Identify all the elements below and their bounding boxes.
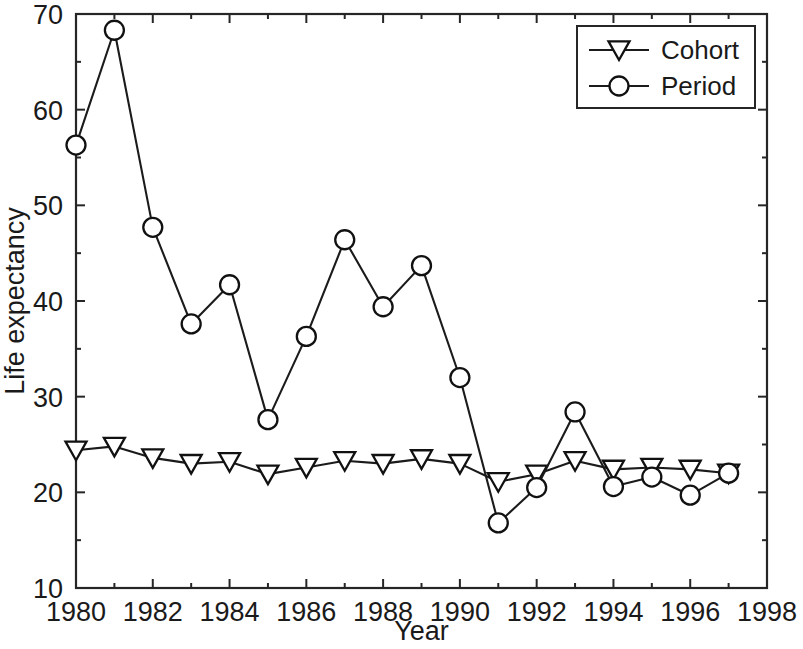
series-line-cohort bbox=[76, 446, 729, 481]
data-point-period-1984 bbox=[220, 275, 239, 294]
x-tick-label: 1986 bbox=[276, 597, 336, 627]
data-point-cohort-1988 bbox=[373, 455, 394, 474]
data-point-period-1985 bbox=[258, 410, 277, 429]
legend-label-cohort: Cohort bbox=[661, 35, 740, 65]
data-point-period-1996 bbox=[681, 486, 700, 505]
legend-label-period: Period bbox=[661, 71, 736, 101]
data-point-period-1986 bbox=[297, 327, 316, 346]
data-point-period-1982 bbox=[143, 218, 162, 237]
x-tick-label: 1996 bbox=[660, 597, 720, 627]
data-point-period-1997 bbox=[719, 464, 738, 483]
data-point-period-1990 bbox=[450, 368, 469, 387]
data-point-period-1994 bbox=[604, 477, 623, 496]
series-cohort bbox=[66, 438, 740, 492]
x-tick-label: 1992 bbox=[507, 597, 567, 627]
data-point-period-1991 bbox=[489, 513, 508, 532]
data-point-period-1983 bbox=[182, 314, 201, 333]
y-tick-label: 70 bbox=[33, 0, 63, 30]
x-tick-label: 1994 bbox=[583, 597, 643, 627]
y-tick-label: 20 bbox=[33, 478, 63, 508]
data-point-cohort-1980 bbox=[66, 442, 87, 461]
x-tick-label: 1982 bbox=[123, 597, 183, 627]
data-point-period-1988 bbox=[374, 297, 393, 316]
chart-figure: 1980198219841986198819901992199419961998… bbox=[0, 0, 803, 649]
y-tick-label: 30 bbox=[33, 383, 63, 413]
x-tick-label: 1984 bbox=[200, 597, 260, 627]
data-point-period-1995 bbox=[642, 468, 661, 487]
data-point-period-1980 bbox=[67, 136, 86, 155]
y-tick-label: 40 bbox=[33, 287, 63, 317]
legend-marker-period bbox=[610, 77, 629, 96]
data-point-period-1981 bbox=[105, 21, 124, 40]
y-tick-label: 10 bbox=[33, 574, 63, 604]
x-tick-label: 1998 bbox=[737, 597, 797, 627]
data-point-period-1989 bbox=[412, 256, 431, 275]
legend: CohortPeriod bbox=[577, 26, 755, 108]
data-point-cohort-1991 bbox=[488, 473, 509, 492]
line-chart: 1980198219841986198819901992199419961998… bbox=[0, 0, 803, 649]
data-point-cohort-1990 bbox=[449, 455, 470, 474]
data-point-period-1987 bbox=[335, 230, 354, 249]
data-point-period-1992 bbox=[527, 478, 546, 497]
y-tick-label: 50 bbox=[33, 191, 63, 221]
y-tick-label: 60 bbox=[33, 96, 63, 126]
x-axis-title: Year bbox=[394, 616, 449, 646]
data-point-cohort-1985 bbox=[257, 466, 278, 485]
data-point-period-1993 bbox=[566, 402, 585, 421]
y-axis-title: Life expectancy bbox=[0, 207, 30, 395]
